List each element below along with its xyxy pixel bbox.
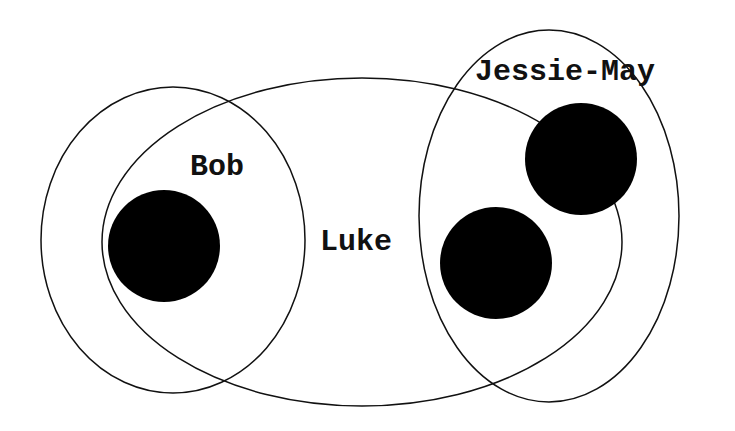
element-dot-bob-luke [108,190,220,302]
euler-diagram: Bob Luke Jessie-May [0,0,735,431]
jessie-may-label: Jessie-May [475,55,655,89]
luke-label: Luke [320,225,392,259]
element-dot-jessie-may-luke [525,103,637,215]
bob-label: Bob [190,150,244,184]
element-dot-luke-jessie-may [440,207,552,319]
